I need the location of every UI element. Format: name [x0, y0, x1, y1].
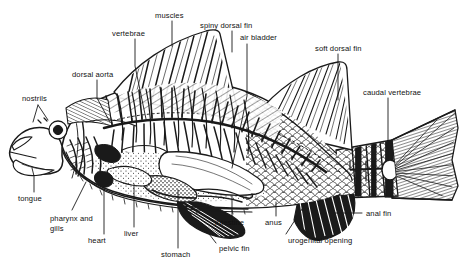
label-pharynx-and-gills: pharynx and gills: [50, 214, 102, 233]
label-intestine: intestine: [215, 218, 244, 227]
label-tongue: tongue: [18, 194, 42, 203]
label-stomach: stomach: [161, 250, 190, 259]
label-air-bladder: air bladder: [240, 33, 277, 42]
label-urogenital-opening: urogenital opening: [288, 236, 352, 245]
label-pelvic-fin: pelvic fin: [219, 244, 250, 253]
figure-canvas: muscles spiny dorsal fin vertebrae air b…: [0, 0, 464, 270]
label-soft-dorsal-fin: soft dorsal fin: [315, 44, 362, 53]
label-dorsal-aorta: dorsal aorta: [72, 70, 113, 79]
caudal-fin-shape: [392, 108, 458, 200]
label-nostrils: nostrils: [22, 94, 47, 103]
label-spiny-dorsal-fin: spiny dorsal fin: [200, 21, 252, 30]
label-anal-fin: anal fin: [366, 209, 391, 218]
label-vertebrae: vertebrae: [112, 29, 145, 38]
label-anus: anus: [265, 218, 282, 227]
label-caudal-vertebrae: caudal vertebrae: [363, 88, 421, 97]
label-muscles: muscles: [155, 11, 184, 20]
label-liver: liver: [124, 229, 138, 238]
label-heart: heart: [88, 236, 106, 245]
